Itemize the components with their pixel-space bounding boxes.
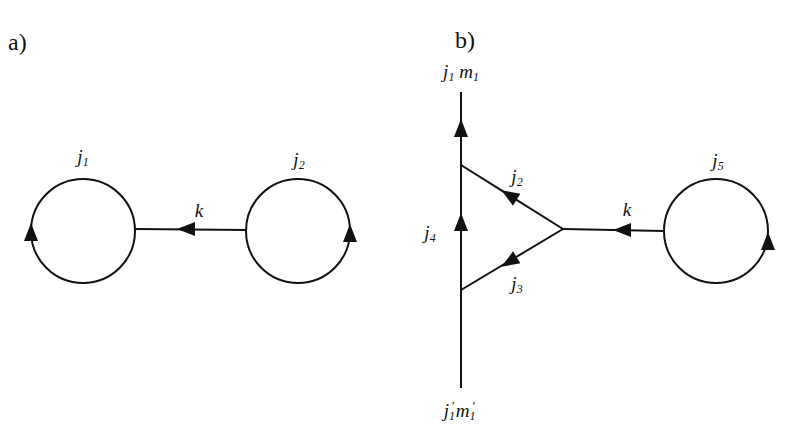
panel-a-label: a)	[8, 30, 27, 54]
label-a-k: k	[195, 201, 203, 220]
panel-b-graphics	[454, 92, 775, 388]
label-b-top-j1m1: j1 m1	[443, 62, 479, 83]
diagram-graphics	[0, 0, 792, 438]
edge-j4-arrow-icon	[454, 213, 468, 231]
edge-k-a-arrow-icon	[177, 222, 195, 236]
label-b-j2: j2	[511, 167, 522, 188]
panel-a-graphics	[24, 179, 357, 283]
label-b-j5: j5	[712, 151, 723, 172]
edge-k-b-arrow-icon	[613, 223, 631, 237]
edge-j3-arrow-icon	[498, 251, 521, 272]
label-b-j3: j3	[511, 274, 522, 295]
loop-j5	[664, 179, 768, 283]
loop-j1-arrow-icon	[24, 223, 38, 241]
label-b-bottom-j1m1-prime: j1′m1′	[444, 399, 477, 422]
panel-b-label: b)	[455, 28, 475, 52]
loop-j1	[31, 179, 135, 283]
diagram-canvas: a) b) j1 j2 k j1 m1 j1′m1′ j2 j3 j4 k j5	[0, 0, 792, 438]
loop-j2	[246, 179, 350, 283]
external-top-arrow-icon	[454, 119, 468, 137]
label-a-j1: j1	[77, 147, 88, 168]
label-b-k: k	[623, 200, 631, 219]
loop-j2-arrow-icon	[343, 224, 357, 242]
label-a-j2: j2	[293, 150, 304, 171]
label-b-j4: j4	[424, 223, 435, 244]
loop-j5-arrow-icon	[761, 232, 775, 250]
